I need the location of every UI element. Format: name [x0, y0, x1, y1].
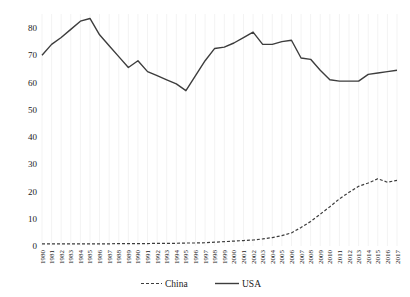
- x-axis-tick-label: 1996: [192, 250, 200, 265]
- x-axis-tick-label: 1982: [58, 250, 66, 265]
- x-axis-tick-label: 2013: [355, 250, 363, 265]
- x-axis-tick-label: 1995: [182, 250, 190, 265]
- x-axis-tick-label: 1983: [67, 250, 75, 265]
- x-axis-tick-label: 2014: [365, 250, 373, 265]
- x-axis-tick-label: 1997: [202, 250, 210, 265]
- x-axis-tick-label: 2003: [259, 250, 267, 265]
- x-axis-tick-label: 1999: [221, 250, 229, 265]
- y-axis-tick-label: 30: [28, 159, 38, 169]
- y-axis-tick-label: 50: [28, 105, 38, 115]
- x-axis-tick-label: 1998: [211, 250, 219, 265]
- x-axis-tick-label: 1981: [48, 250, 56, 265]
- x-axis-tick-label: 1991: [144, 250, 152, 265]
- x-axis-tick-label: 1994: [173, 250, 181, 265]
- x-axis-tick-label: 2009: [317, 250, 325, 265]
- y-axis-tick-label: 40: [28, 132, 38, 142]
- x-axis-tick-label: 1985: [86, 250, 94, 265]
- x-axis-tick-label: 1990: [134, 250, 142, 265]
- legend-china-label: China: [165, 279, 188, 289]
- y-axis-tick-label: 0: [33, 241, 38, 251]
- x-axis-tick-label: 2000: [230, 250, 238, 265]
- china-line: [42, 179, 397, 244]
- x-axis-tick-label: 2006: [288, 250, 296, 265]
- x-axis-tick-label: 1986: [96, 250, 104, 265]
- x-axis-tick-label: 1992: [154, 250, 162, 265]
- x-axis-tick-label: 1987: [106, 250, 114, 265]
- x-axis-tick-label: 2015: [374, 250, 382, 265]
- x-axis-tick-label: 2012: [346, 250, 354, 265]
- x-axis-tick-label: 2005: [278, 250, 286, 265]
- y-axis-tick-label: 10: [28, 214, 38, 224]
- x-axis-tick-label: 2017: [394, 250, 402, 265]
- x-axis-tick-label: 1989: [125, 250, 133, 265]
- x-axis-tick-label: 2007: [298, 250, 306, 265]
- x-axis-tick-label: 2002: [250, 250, 258, 265]
- usa-line: [42, 18, 397, 90]
- x-axis-tick-label: 2016: [384, 250, 392, 265]
- y-axis-tick-label: 70: [28, 50, 38, 60]
- x-axis-tick-label: 2011: [336, 250, 344, 264]
- x-axis-tick-label: 1980: [39, 250, 47, 265]
- y-axis-tick-label: 20: [28, 187, 38, 197]
- x-axis-tick-label: 2010: [326, 250, 334, 265]
- legend-usa-label: USA: [242, 279, 261, 289]
- line-chart-svg: 0102030405060708019801981198219831984198…: [0, 0, 410, 297]
- y-axis-tick-label: 60: [28, 78, 38, 88]
- x-axis-tick-label: 2008: [307, 250, 315, 265]
- y-axis-tick-label: 80: [28, 23, 38, 33]
- chart-figure: 0102030405060708019801981198219831984198…: [0, 0, 410, 297]
- x-axis-tick-label: 1984: [77, 250, 85, 265]
- x-axis-tick-label: 2001: [240, 250, 248, 265]
- x-axis-tick-label: 1988: [115, 250, 123, 265]
- x-axis-tick-label: 2004: [269, 250, 277, 265]
- x-axis-tick-label: 1993: [163, 250, 171, 265]
